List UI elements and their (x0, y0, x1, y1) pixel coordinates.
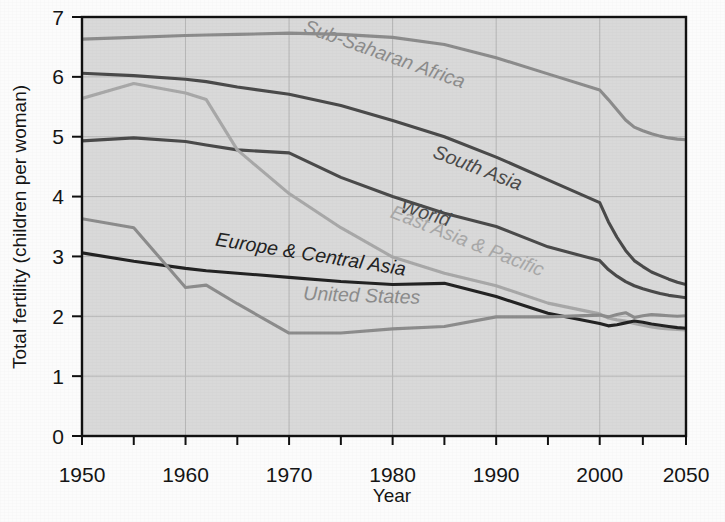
fertility-chart-figure: 1950196019701980199020002050 01234567 Su… (0, 0, 725, 522)
y-tick-label-5: 5 (52, 125, 64, 148)
x-tick-label-1980: 1980 (369, 463, 416, 486)
y-tick-label-6: 6 (52, 65, 64, 88)
series-label-united-states: United States (303, 282, 421, 308)
y-tick-label-2: 2 (52, 305, 64, 328)
x-tick-label-2000: 2000 (576, 463, 623, 486)
x-axis-title: Year (373, 485, 412, 506)
y-tick-label-7: 7 (52, 6, 64, 29)
y-tick-label-0: 0 (52, 425, 64, 448)
y-axis-title: Total fertility (children per woman) (9, 85, 30, 369)
x-tick-label-1950: 1950 (59, 463, 106, 486)
y-tick-label-1: 1 (52, 365, 64, 388)
x-tick-label-1960: 1960 (162, 463, 209, 486)
line-chart: 1950196019701980199020002050 01234567 Su… (0, 0, 725, 522)
y-tick-label-4: 4 (52, 185, 64, 208)
x-tick-label-1970: 1970 (266, 463, 313, 486)
y-tick-label-3: 3 (52, 245, 64, 268)
x-tick-label-2050: 2050 (663, 463, 710, 486)
x-tick-label-1990: 1990 (473, 463, 520, 486)
